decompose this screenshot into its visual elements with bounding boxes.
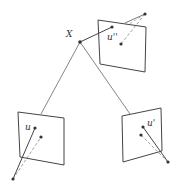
ray-left <box>41 42 80 114</box>
top-proj-dashed <box>121 14 145 44</box>
label-u: u <box>25 122 31 132</box>
left-image-dot <box>33 126 36 129</box>
right-center-dot <box>166 160 169 163</box>
top-proj-solid <box>125 14 145 23</box>
top-alt-dot <box>119 42 122 45</box>
point-x-dot <box>78 40 82 44</box>
label-x: X <box>65 29 73 39</box>
left-alt-dot <box>39 135 42 138</box>
right-proj-solid <box>143 127 168 162</box>
right-image-dot <box>141 125 144 128</box>
projection-diagram: X u u' u'' <box>0 0 180 184</box>
left-center-dot <box>11 177 14 180</box>
top-center-dot <box>143 12 146 15</box>
label-u-double-prime: u'' <box>107 32 118 42</box>
image-plane-top <box>98 20 146 72</box>
left-proj-dashed <box>13 137 41 179</box>
right-alt-dot <box>139 133 142 136</box>
right-proj-dashed <box>141 135 168 162</box>
ray-right <box>80 42 130 114</box>
top-image-dot <box>110 25 113 28</box>
top-proj-dashed2 <box>128 14 145 25</box>
label-u-prime: u' <box>147 118 155 128</box>
left-proj-solid <box>13 128 35 179</box>
